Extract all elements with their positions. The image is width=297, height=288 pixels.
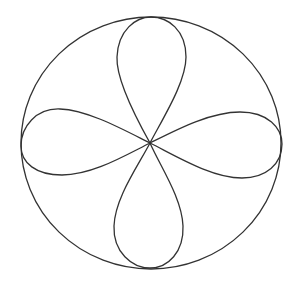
petal-left [21,109,150,175]
petal-top [117,17,186,143]
petal-bottom [114,143,183,268]
petal-right [150,112,282,178]
rose-diagram [0,0,297,288]
